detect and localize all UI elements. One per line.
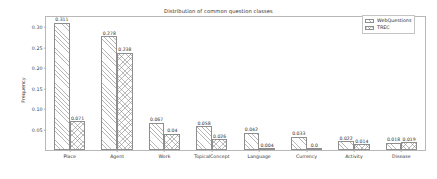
legend-swatch-icon xyxy=(365,26,374,31)
x-tick-mark xyxy=(306,150,307,152)
bar: 0.04 xyxy=(164,134,180,150)
bar: 0.278 xyxy=(101,36,117,150)
legend: WebQuestionsTREC xyxy=(362,15,415,34)
x-tick-mark xyxy=(354,150,355,152)
bar: 0.033 xyxy=(291,137,307,151)
bar-value-label: 0.026 xyxy=(213,135,226,140)
bar-value-label: 0.019 xyxy=(403,138,416,143)
bar: 0.071 xyxy=(70,121,86,150)
x-tick-mark xyxy=(164,150,165,152)
x-tick-mark xyxy=(69,150,70,152)
bar-value-label: 0.0 xyxy=(311,144,318,149)
x-tick-label: Language xyxy=(248,154,271,159)
bar-value-label: 0.022 xyxy=(340,137,353,142)
x-tick-mark xyxy=(211,150,212,152)
x-tick-label: Activity xyxy=(345,154,363,159)
bar: 0.019 xyxy=(401,142,417,150)
x-tick-label: Place xyxy=(63,154,75,159)
bar: 0.067 xyxy=(149,123,165,150)
bar-value-label: 0.278 xyxy=(103,32,116,37)
bar-value-label: 0.042 xyxy=(245,128,258,133)
bar-value-label: 0.04 xyxy=(167,129,177,134)
bar: 0.004 xyxy=(259,148,275,150)
bar: 0.014 xyxy=(354,144,370,150)
bar-value-label: 0.311 xyxy=(55,18,68,23)
legend-item[interactable]: WebQuestions xyxy=(365,18,411,25)
x-tick-mark xyxy=(401,150,402,152)
legend-item[interactable]: TREC xyxy=(365,25,411,32)
bar-value-label: 0.033 xyxy=(292,132,305,137)
bar-value-label: 0.071 xyxy=(71,117,84,122)
bar: 0.311 xyxy=(54,23,70,150)
y-tick-label: 0.15 xyxy=(32,86,43,91)
bar-value-label: 0.004 xyxy=(260,144,273,149)
y-tick-label: 0.20 xyxy=(32,66,43,71)
y-tick-label: 0.25 xyxy=(32,45,43,50)
bar: 0.042 xyxy=(244,133,260,150)
bar: 0.018 xyxy=(386,143,402,150)
chart-title: Distribution of common question classes xyxy=(0,8,437,14)
bar: 0.0 xyxy=(307,148,323,150)
x-tick-label: Work xyxy=(159,154,171,159)
x-tick-mark xyxy=(117,150,118,152)
chart-figure: Distribution of common question classes … xyxy=(0,0,437,179)
y-tick-label: 0.10 xyxy=(32,107,43,112)
y-tick-label: 0.05 xyxy=(32,127,43,132)
bar-value-label: 0.238 xyxy=(118,48,131,53)
bar: 0.238 xyxy=(117,53,133,150)
x-tick-mark xyxy=(259,150,260,152)
legend-swatch-icon xyxy=(365,19,374,24)
bar-value-label: 0.018 xyxy=(387,138,400,143)
bar: 0.022 xyxy=(338,141,354,150)
legend-label: WebQuestions xyxy=(377,19,411,24)
x-tick-label: Agent xyxy=(110,154,124,159)
x-tick-label: Currency xyxy=(296,154,317,159)
bar: 0.026 xyxy=(212,139,228,150)
legend-label: TREC xyxy=(377,26,390,31)
bars-layer: 0.3110.0710.2780.2380.0670.040.0580.0260… xyxy=(46,17,425,150)
bar-value-label: 0.058 xyxy=(197,122,210,127)
bar-value-label: 0.014 xyxy=(355,140,368,145)
plot-area: 0.050.100.150.200.250.30 PlaceAgentWorkT… xyxy=(45,16,426,151)
y-axis-label: Frequency xyxy=(20,77,26,102)
bar-value-label: 0.067 xyxy=(150,118,163,123)
x-tick-label: Disease xyxy=(392,154,410,159)
bar: 0.058 xyxy=(196,126,212,150)
y-tick-label: 0.30 xyxy=(32,25,43,30)
x-tick-label: TopicalConcept xyxy=(194,154,229,159)
